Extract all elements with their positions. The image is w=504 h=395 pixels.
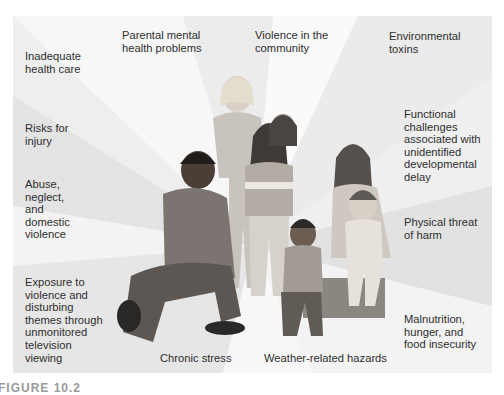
label-line: Malnutrition,	[404, 313, 476, 326]
label-line: violence and	[25, 289, 103, 302]
label-line: Inadequate	[25, 50, 81, 63]
label-line: disturbing	[25, 301, 103, 314]
label-line: unidentified	[404, 146, 481, 159]
label-line: Environmental	[389, 30, 461, 43]
label-inadequate-health-care: Inadequate health care	[25, 50, 81, 75]
label-line: toxins	[389, 43, 461, 56]
label-line: Violence in the	[255, 29, 328, 42]
label-functional-challenges: Functional challenges associated with un…	[404, 108, 481, 184]
label-exposure-tv: Exposure to violence and disturbing them…	[25, 276, 103, 364]
label-physical-threat: Physical threat of harm	[404, 216, 477, 241]
label-malnutrition: Malnutrition, hunger, and food insecurit…	[404, 313, 476, 351]
label-chronic-stress: Chronic stress	[160, 352, 232, 365]
label-line: viewing	[25, 352, 103, 365]
label-abuse-neglect: Abuse, neglect, and domestic violence	[25, 178, 70, 241]
label-line: developmental	[404, 158, 481, 171]
label-line: and	[25, 203, 70, 216]
label-line: delay	[404, 171, 481, 184]
label-line: Weather-related hazards	[264, 352, 387, 365]
label-line: health problems	[122, 42, 202, 55]
figure-caption: FIGURE 10.2	[0, 381, 81, 395]
label-line: Exposure to	[25, 276, 103, 289]
label-violence-community: Violence in the community	[255, 29, 328, 54]
label-line: community	[255, 42, 328, 55]
label-line: challenges	[404, 121, 481, 134]
label-line: themes through	[25, 314, 103, 327]
label-line: Functional	[404, 108, 481, 121]
label-parental-mental-health: Parental mental health problems	[122, 29, 202, 54]
label-line: Parental mental	[122, 29, 202, 42]
label-line: Risks for	[25, 122, 69, 135]
label-line: Chronic stress	[160, 352, 232, 365]
label-line: Abuse,	[25, 178, 70, 191]
label-line: Physical threat	[404, 216, 477, 229]
label-line: domestic	[25, 216, 70, 229]
label-line: injury	[25, 135, 69, 148]
label-line: health care	[25, 63, 81, 76]
label-line: violence	[25, 228, 70, 241]
label-line: associated with	[404, 133, 481, 146]
label-risks-injury: Risks for injury	[25, 122, 69, 147]
label-line: television	[25, 339, 103, 352]
label-line: unmonitored	[25, 326, 103, 339]
label-line: neglect,	[25, 191, 70, 204]
label-line: of harm	[404, 229, 477, 242]
label-environmental-toxins: Environmental toxins	[389, 30, 461, 55]
label-line: food insecurity	[404, 338, 476, 351]
label-weather-hazards: Weather-related hazards	[264, 352, 387, 365]
diagram-panel: Inadequate health care Parental mental h…	[13, 16, 492, 373]
label-line: hunger, and	[404, 326, 476, 339]
